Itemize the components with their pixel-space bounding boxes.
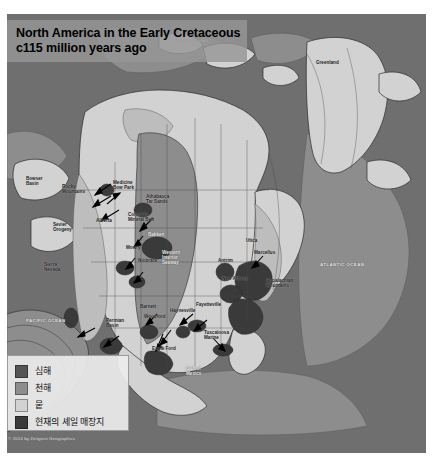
legend-row-land: 뭍 [15, 397, 122, 413]
map-title-line-1: North America in the Early Cretaceous [16, 26, 247, 41]
legend-swatch-shallow-sea [15, 382, 28, 395]
map-label: Haynesville [170, 308, 195, 313]
map-label: Gulf of Mexico [186, 366, 202, 376]
legend-row-shallow-sea: 천해 [15, 380, 122, 396]
map-label: Permian Basin [106, 318, 124, 328]
map-label: Colorado Mineral Belt [128, 212, 154, 222]
legend-label-deep-sea: 심해 [35, 366, 51, 377]
map-legend: 심해천해뭍현재의 셰일 매장지 [7, 355, 129, 431]
map-label: Antrim [218, 258, 233, 263]
map-label: Bowser Basin [26, 176, 43, 186]
map-title-line-2: c115 million years ago [16, 41, 247, 56]
legend-row-deep-sea: 심해 [15, 363, 122, 379]
map-label: Western Interior Seaway [162, 250, 180, 266]
map-screenshot: Bowser BasinRocky MountainsMedicine Bow … [0, 0, 433, 467]
map-label: Athabasca Tar Sands [146, 194, 169, 204]
map-label: Barnett [140, 304, 156, 309]
map-label: Greenland [316, 60, 339, 65]
map-label: Marcellus [254, 250, 275, 255]
legend-swatch-land [15, 399, 28, 412]
legend-label-shallow-sea: 천해 [35, 383, 51, 394]
map-label: Tuscaloosa Marine [204, 330, 229, 340]
legend-label-land: 뭍 [35, 400, 43, 411]
map-label: Alberta [96, 218, 112, 223]
map-label: Sevier Orogeny [53, 222, 72, 232]
map-label: ATLANTIC OCEAN [320, 262, 364, 267]
map-label: PACIFIC OCEAN [26, 318, 66, 323]
map-label: Sierra Nevada [44, 262, 60, 272]
map-label: Mowry [126, 245, 141, 250]
map-label: Eagle Ford [152, 346, 176, 351]
map-label: Woodford [144, 314, 166, 319]
map-label: Utica [246, 238, 257, 243]
title-banner: North America in the Early Cretaceous c1… [7, 20, 247, 62]
map-label: Bakken [148, 232, 164, 237]
legend-swatch-present-day-shale-deposits [15, 416, 28, 429]
legend-label-present-day-shale-deposits: 현재의 셰일 매장지 [35, 417, 104, 428]
map-label: Rocky Mountains [62, 184, 85, 194]
map-credit: © 2014 by Zeitgeist Geographics [8, 436, 75, 441]
map-label: Niobrara [138, 258, 157, 263]
legend-row-present-day-shale-deposits: 현재의 셰일 매장지 [15, 414, 122, 430]
map-label: Fayetteville [196, 302, 221, 307]
map-label: Appalachian Mountains [266, 278, 293, 288]
map-label: New Albany [222, 276, 248, 281]
map-label: Medicine Bow Park [113, 180, 134, 190]
legend-swatch-deep-sea [15, 365, 28, 378]
